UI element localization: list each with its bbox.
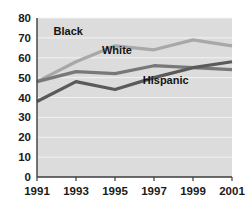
line-chart: 01020304050607080 1991199319951997199920…: [0, 0, 246, 211]
x-axis-tick-label: 1991: [24, 185, 50, 197]
y-axis-tick-label: 50: [18, 72, 31, 84]
y-axis-tick-label: 60: [18, 52, 31, 64]
y-axis-tick-label: 70: [18, 32, 31, 44]
y-axis-tick-label: 0: [25, 171, 31, 183]
series-label-black: Black: [54, 25, 84, 37]
y-axis-tick-label: 30: [18, 111, 31, 123]
y-axis-tick-label: 80: [18, 12, 31, 24]
x-axis-tick-label: 1993: [63, 185, 89, 197]
y-axis-tick-labels: 01020304050607080: [18, 12, 31, 183]
x-axis-tick-label: 2001: [219, 185, 245, 197]
y-axis-tick-label: 10: [18, 151, 31, 163]
x-axis-tick-label: 1999: [180, 185, 206, 197]
x-axis-tick-label: 1995: [102, 185, 128, 197]
series-label-hispanic: Hispanic: [143, 74, 189, 86]
y-axis-tick-label: 20: [18, 131, 31, 143]
x-axis-tick-label: 1997: [141, 185, 167, 197]
series-label-white: White: [102, 44, 132, 56]
chart-container: 01020304050607080 1991199319951997199920…: [0, 0, 246, 211]
y-axis-tick-label: 40: [18, 92, 31, 104]
x-axis-tick-labels: 199119931995199719992001: [24, 185, 245, 197]
